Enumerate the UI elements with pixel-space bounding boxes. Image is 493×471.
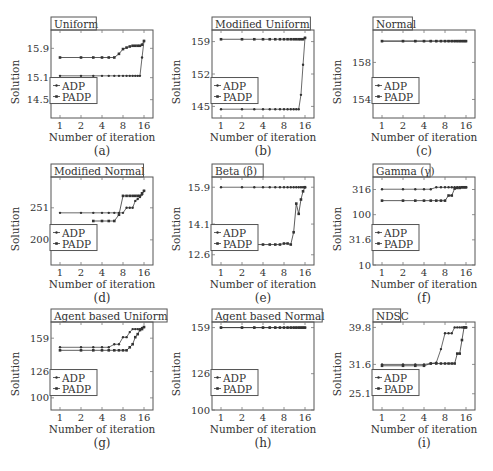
subplot-title: Modified Uniform	[212, 17, 310, 30]
y-tick-label: 100	[191, 405, 210, 416]
svg-text:NDSC: NDSC	[376, 310, 409, 322]
y-tick-label: 251	[30, 202, 49, 213]
subplot-caption: (g)	[20, 436, 184, 450]
subplot-g: Agent based Uniform124816100126159Number…	[0, 292, 164, 447]
y-tick-label: 15.9	[27, 43, 49, 54]
x-tick-label: 2	[78, 267, 84, 278]
subplot-caption: (i)	[342, 436, 493, 450]
x-axis-label: Number of iteration	[210, 423, 317, 435]
x-tick-label: 1	[57, 120, 63, 131]
svg-text:Uniform: Uniform	[54, 18, 98, 30]
subplot-title: Agent based Normal	[212, 309, 325, 322]
plot-frame	[373, 30, 475, 118]
x-tick-label: 1	[57, 267, 63, 278]
x-tick-label: 1	[218, 267, 224, 278]
series-padp	[92, 190, 145, 223]
x-tick-label: 1	[218, 120, 224, 131]
x-tick-label: 2	[400, 120, 406, 131]
x-axis-label: Number of iteration	[371, 131, 478, 143]
svg-text:Modified Normal: Modified Normal	[54, 165, 145, 177]
x-tick-label: 1	[57, 412, 63, 423]
svg-text:Modified Uniform: Modified Uniform	[215, 18, 310, 30]
x-tick-label: 2	[400, 412, 406, 423]
legend-entry-padp: PADP	[223, 383, 252, 395]
subplot-caption: (h)	[181, 436, 345, 450]
x-axis-label: Number of iteration	[210, 131, 317, 143]
svg-text:Gamma (γ): Gamma (γ)	[376, 165, 435, 177]
subplot-i: NDSC12481625.131.639.8Number of iteratio…	[322, 292, 486, 447]
x-tick-label: 8	[442, 267, 448, 278]
legend: ADPPADP	[211, 78, 258, 104]
x-tick-label: 4	[260, 120, 266, 131]
series-padp	[253, 186, 306, 246]
plot-frame	[212, 177, 314, 265]
x-tick-label: 8	[281, 412, 287, 423]
x-tick-label: 2	[239, 120, 245, 131]
subplot-title: Gamma (γ)	[373, 164, 435, 177]
x-tick-label: 1	[379, 120, 385, 131]
y-tick-label: 316	[352, 184, 371, 195]
x-tick-label: 16	[138, 267, 151, 278]
y-tick-label: 14.5	[27, 94, 49, 105]
legend: ADPPADP	[372, 225, 419, 251]
series-adp	[59, 190, 145, 214]
legend: ADPPADP	[372, 78, 419, 104]
x-tick-label: 16	[138, 120, 151, 131]
subplot-title: Modified Normal	[51, 164, 145, 177]
x-tick-label: 16	[460, 267, 473, 278]
legend-entry-padp: PADP	[62, 238, 91, 250]
y-tick-label: 200	[30, 234, 49, 245]
y-tick-label: 126	[191, 368, 210, 379]
y-tick-label: 31.6	[349, 359, 371, 370]
legend-entry-padp: PADP	[384, 238, 413, 250]
y-tick-label: 145	[191, 101, 210, 112]
x-tick-label: 1	[379, 267, 385, 278]
subplot-b: Modified Uniform124816145152159Number of…	[161, 0, 325, 155]
y-axis-label: Solution	[331, 352, 343, 397]
x-tick-label: 16	[460, 412, 473, 423]
x-tick-label: 2	[239, 412, 245, 423]
x-tick-label: 4	[421, 120, 427, 131]
x-tick-label: 2	[78, 412, 84, 423]
legend-entry-padp: PADP	[384, 383, 413, 395]
x-tick-label: 8	[120, 120, 126, 131]
series-padp	[381, 40, 468, 43]
subplot-a: Uniform12481614.515.115.9Number of itera…	[0, 0, 164, 155]
legend-entry-padp: PADP	[223, 91, 252, 103]
y-tick-label: 12.6	[188, 249, 210, 260]
x-tick-label: 1	[218, 412, 224, 423]
x-tick-label: 16	[460, 120, 473, 131]
svg-text:Normal: Normal	[376, 18, 417, 30]
x-axis-label: Number of iteration	[49, 423, 156, 435]
x-tick-label: 8	[281, 267, 287, 278]
subplot-e: Beta (β)12481612.614.115.9Number of iter…	[161, 147, 325, 302]
y-tick-label: 100	[352, 209, 371, 220]
plot-frame	[212, 322, 314, 410]
x-tick-label: 4	[99, 267, 105, 278]
subplot-c: Normal124816154158Number of iterationSol…	[322, 0, 486, 155]
y-axis-label: Solution	[9, 207, 21, 252]
legend-entry-padp: PADP	[384, 91, 413, 103]
y-tick-label: 39.8	[349, 322, 371, 333]
legend-entry-padp: PADP	[62, 383, 91, 395]
subplot-h: Agent based Normal124816100126159Number …	[161, 292, 325, 447]
x-tick-label: 4	[99, 120, 105, 131]
x-tick-label: 8	[442, 412, 448, 423]
y-axis-label: Solution	[9, 60, 21, 105]
series-padp	[59, 40, 146, 59]
subplot-title: NDSC	[373, 309, 409, 322]
y-axis-label: Solution	[170, 207, 182, 252]
y-tick-label: 14.1	[188, 219, 210, 230]
x-axis-label: Number of iteration	[371, 423, 478, 435]
series-adp	[381, 326, 467, 365]
series-padp	[381, 326, 468, 367]
legend-entry-padp: PADP	[62, 91, 91, 103]
svg-text:Beta (β): Beta (β)	[215, 165, 257, 177]
y-tick-label: 15.9	[188, 182, 210, 193]
y-tick-label: 10	[358, 260, 371, 271]
y-axis-label: Solution	[331, 207, 343, 252]
y-tick-label: 154	[352, 94, 371, 105]
subplot-f: Gamma (γ)1248161031.6100316Number of ite…	[322, 147, 486, 302]
x-tick-label: 4	[421, 267, 427, 278]
y-axis-label: Solution	[170, 352, 182, 397]
